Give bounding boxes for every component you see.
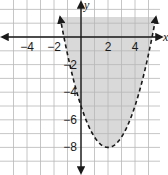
y-tick-label: −4 [63, 85, 77, 99]
x-tick-label: 2 [105, 40, 112, 54]
x-axis-label: x [162, 30, 168, 44]
curve-arrow-right [155, 17, 156, 21]
y-tick-label: −2 [63, 58, 77, 72]
y-tick-label: −8 [63, 140, 77, 154]
y-axis-label: y [83, 0, 90, 12]
x-tick-label: −4 [20, 40, 34, 54]
curve-arrow-left [60, 17, 61, 21]
y-tick-label: −6 [63, 113, 77, 127]
x-tick-label: 4 [132, 40, 139, 54]
x-tick-label: −2 [47, 40, 61, 54]
coordinate-plane: −4−224−2−4−6−8xy [0, 0, 168, 175]
